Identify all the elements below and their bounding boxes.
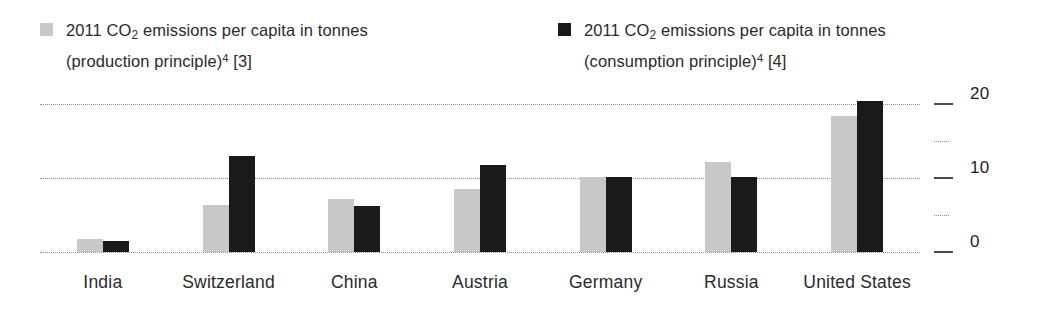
bar-switzerland-consumption [229,156,255,252]
y-tick-mark-5 [934,215,949,216]
bar-austria-consumption [480,165,506,252]
y-tick-mark-10 [934,177,953,179]
bar-china-consumption [354,206,380,252]
x-axis-label-united-states: United States [803,272,911,293]
bar-group-united-states [831,44,883,252]
bar-group-russia [705,44,757,252]
bar-india-production [77,239,103,252]
y-tick-mark-0 [934,251,953,253]
bar-group-germany [580,44,632,252]
bar-groups [40,44,920,252]
x-axis: IndiaSwitzerlandChinaAustriaGermanyRussi… [40,272,920,302]
plot-area [40,104,920,252]
bar-switzerland-production [203,205,229,252]
x-axis-label-austria: Austria [452,272,508,293]
bar-group-austria [454,44,506,252]
bar-group-switzerland [203,44,255,252]
y-tick-mark-15 [934,141,949,142]
legend-production-gas: CO [107,21,132,39]
legend-production-line1-tail: emissions per capita in tonnes [138,21,368,39]
bar-china-production [328,199,354,252]
bar-group-china [328,44,380,252]
x-axis-label-switzerland: Switzerland [182,272,275,293]
bar-india-consumption [103,241,129,252]
bar-russia-production [705,162,731,252]
bar-group-india [77,44,129,252]
x-axis-label-russia: Russia [704,272,759,293]
bar-united-states-production [831,116,857,252]
x-axis-label-germany: Germany [569,272,642,293]
gridline-0 [40,252,920,253]
bar-united-states-consumption [857,101,883,252]
legend-consumption-year: 2011 [584,21,620,39]
bar-austria-production [454,189,480,252]
y-tick-label-10: 10 [970,158,990,178]
y-tick-label-20: 20 [970,84,990,104]
x-axis-label-china: China [331,272,378,293]
x-axis-label-india: India [83,272,122,293]
legend-production-year: 2011 [66,21,102,39]
y-tick-mark-20 [934,103,953,105]
bar-germany-consumption [606,177,632,252]
co2-emissions-bar-chart: 2011 CO2 emissions per capita in tonnes(… [0,0,1049,320]
y-axis: 20100 [934,104,1049,252]
y-tick-label-0: 0 [970,232,980,252]
legend-consumption-line1-tail: emissions per capita in tonnes [656,21,886,39]
bar-russia-consumption [731,177,757,252]
legend-consumption-gas: CO [625,21,650,39]
legend-swatch-production-icon [40,23,53,36]
legend-swatch-consumption-icon [558,23,571,36]
bar-germany-production [580,177,606,252]
